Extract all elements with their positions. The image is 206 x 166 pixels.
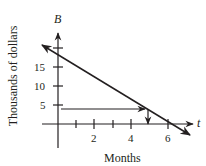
x-axis-symbol: t (197, 117, 200, 129)
y-axis-symbol: B (54, 13, 61, 25)
chart-canvas (0, 0, 206, 166)
y-tick-10: 10 (34, 80, 45, 92)
y-tick-5: 5 (40, 99, 46, 111)
x-axis-title: Months (104, 152, 141, 164)
x-tick-4: 4 (128, 132, 134, 144)
y-axis-title: Thousands of dollars (6, 26, 21, 127)
x-tick-2: 2 (91, 132, 97, 144)
y-tick-15: 15 (34, 61, 45, 73)
x-tick-6: 6 (165, 132, 171, 144)
data-line (42, 45, 190, 135)
